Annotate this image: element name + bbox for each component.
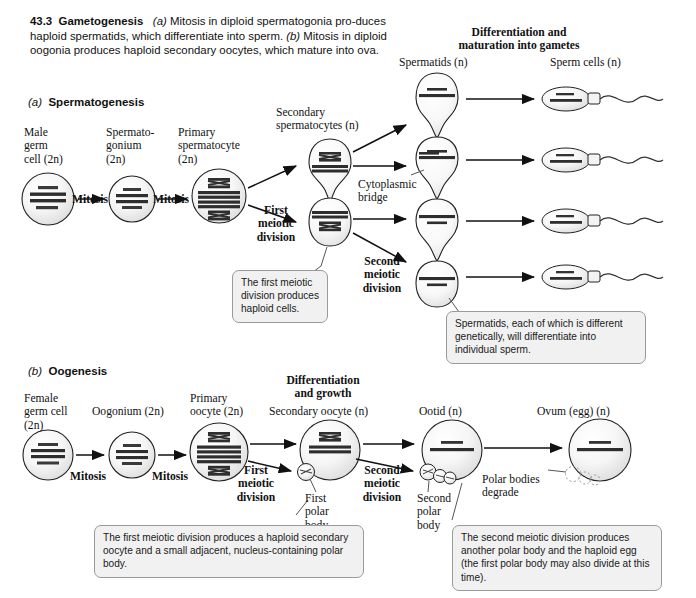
label-first-meiotic-division-a: First meiotic division (248, 204, 304, 244)
label-first-meiotic-division-b: First meiotic division (228, 464, 284, 504)
label-cytoplasmic-bridge: Cytoplasmic bridge (358, 178, 417, 205)
label-mitosis-a-1: Mitosis (72, 193, 108, 206)
label-differentiation-maturation: Differentiation and maturation into game… (419, 26, 619, 53)
section-a-marker: (a) (28, 96, 42, 108)
leader-ootid-callout (452, 483, 462, 520)
section-a-title: Spermatogenesis (48, 96, 144, 108)
sperm-cells-group (542, 87, 663, 289)
cell-spermatogonium (109, 176, 155, 222)
cell-spermatid-chain (416, 73, 458, 307)
section-a-heading: (a) Spermatogenesis (28, 96, 144, 108)
label-polar-bodies-degrade: Polar bodies degrade (482, 473, 540, 500)
cell-male-germ-cell (22, 173, 74, 225)
cell-secondary-spermatocytes (308, 138, 352, 246)
leader-polar-bodies-degrade (548, 470, 566, 472)
arrow-meiosis2-a (353, 125, 406, 152)
arrow-meiosis1-upper (248, 166, 296, 188)
section-b-marker: (b) (28, 365, 42, 377)
sperm-cell (542, 148, 663, 172)
first-polar-body (298, 464, 315, 481)
section-b-heading: (b) Oogenesis (28, 365, 107, 377)
label-female-germ-cell: Female germ cell (2n) (24, 392, 67, 432)
sperm-cell (542, 87, 663, 111)
leader-spermatid-callout (449, 298, 459, 312)
label-second-meiotic-division-a: Second meiotic division (352, 255, 412, 295)
callout-first-meiotic-b: The first meiotic division produces a ha… (94, 525, 364, 578)
label-primary-oocyte: Primary oocyte (2n) (190, 392, 243, 419)
leader-first-meiotic-callout (313, 247, 327, 272)
label-spermatids: Spermatids (n) (399, 56, 468, 69)
label-secondary-spermatocytes: Secondary spermatocytes (n) (276, 106, 359, 133)
cell-female-germ-cell (23, 430, 73, 480)
label-mitosis-b-1: Mitosis (70, 470, 106, 483)
label-second-polar-body: Second polar body (417, 492, 451, 532)
label-spermatogonium: Spermato- gonium (2n) (106, 126, 154, 166)
leader-first-polar-body (310, 479, 316, 492)
callout-spermatids: Spermatids, each of which is different g… (446, 311, 646, 364)
cell-oogonium (109, 432, 155, 478)
label-differentiation-growth: Differentiation and growth (258, 374, 388, 401)
figure-drawing (0, 0, 696, 598)
cell-primary-spermatocyte (192, 169, 246, 223)
label-primary-spermatocyte: Primary spermatocyte (2n) (178, 126, 240, 166)
sperm-cell (542, 209, 663, 233)
callout-second-meiotic-b: The second meiotic division produces ano… (452, 525, 662, 591)
cell-ovum (569, 419, 631, 481)
label-mitosis-b-2: Mitosis (152, 470, 188, 483)
label-secondary-oocyte: Secondary oocyte (n) (269, 405, 368, 418)
label-mitosis-a-2: Mitosis (153, 193, 189, 206)
label-ootid: Ootid (n) (419, 405, 462, 418)
label-male-germ-cell: Male germ cell (2n) (24, 126, 63, 166)
label-oogonium: Oogonium (2n) (92, 405, 164, 418)
label-ovum: Ovum (egg) (n) (537, 405, 610, 418)
callout-first-meiotic-a: The first meiotic division produces hapl… (232, 270, 328, 323)
label-second-meiotic-division-b: Second meiotic division (352, 464, 412, 504)
label-sperm-cells: Sperm cells (n) (550, 56, 621, 69)
section-b-title: Oogenesis (48, 365, 107, 377)
sperm-cell (542, 265, 663, 289)
leader-second-polar-body (428, 481, 429, 492)
